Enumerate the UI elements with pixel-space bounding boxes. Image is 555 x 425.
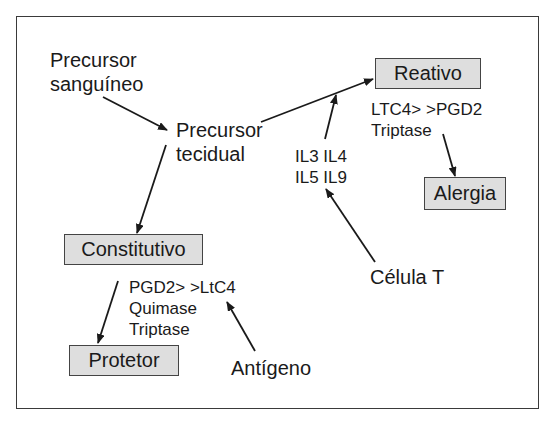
node-antigeno-label: Antígeno	[231, 357, 311, 379]
arrow-tecidual-to-constitutivo	[137, 145, 166, 233]
node-constitutivo-label: Constitutivo	[81, 238, 186, 261]
node-precursor-tecidual-line2: tecidual	[176, 142, 263, 166]
annotation-interleukins: IL3 IL4 IL5 IL9	[295, 146, 347, 188]
node-antigeno: Antígeno	[231, 356, 311, 380]
node-precursor-sanguineo-line1: Precursor	[50, 48, 143, 72]
arrow-tecidual-to-reativo	[261, 79, 373, 122]
arrow-sanguineo-to-tecidual	[103, 97, 167, 130]
constitutivo-mediators-line2: Quimase	[129, 298, 236, 319]
node-precursor-tecidual-line1: Precursor	[176, 118, 263, 142]
node-precursor-sanguineo-line2: sanguíneo	[50, 72, 143, 96]
node-reativo-label: Reativo	[394, 62, 462, 85]
interleukins-line1: IL3 IL4	[295, 146, 347, 167]
reativo-mediators-line2: Triptase	[371, 120, 482, 141]
node-precursor-sanguineo: Precursor sanguíneo	[50, 48, 143, 96]
node-protetor: Protetor	[69, 345, 179, 376]
interleukins-line2: IL5 IL9	[295, 167, 347, 188]
constitutivo-mediators-line1: PGD2> >LtC4	[129, 277, 236, 298]
node-precursor-tecidual: Precursor tecidual	[176, 118, 263, 166]
constitutivo-mediators-line3: Triptase	[129, 319, 236, 340]
arrow-constitutivo-to-protetor	[98, 281, 118, 343]
node-alergia-label: Alergia	[434, 182, 496, 205]
node-reativo: Reativo	[375, 58, 481, 89]
node-alergia: Alergia	[424, 177, 506, 210]
node-celula-t: Célula T	[370, 265, 444, 289]
node-constitutivo: Constitutivo	[64, 234, 203, 265]
node-celula-t-label: Célula T	[370, 266, 444, 288]
arrow-celula-t-to-interleukins	[326, 189, 375, 262]
annotation-reativo-mediators: LTC4> >PGD2 Triptase	[371, 99, 482, 141]
node-protetor-label: Protetor	[88, 349, 159, 372]
reativo-mediators-line1: LTC4> >PGD2	[371, 99, 482, 120]
arrow-interleukins-to-reativo-path	[325, 95, 336, 139]
annotation-constitutivo-mediators: PGD2> >LtC4 Quimase Triptase	[129, 277, 236, 340]
